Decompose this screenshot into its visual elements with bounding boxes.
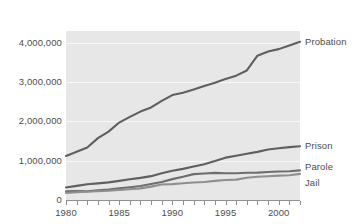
- series-line-probation: [66, 42, 300, 156]
- series-label-probation: Probation: [305, 36, 347, 47]
- y-tick-label-2000000: 2,000,000: [0, 115, 62, 126]
- x-tick-2002: [300, 201, 301, 205]
- x-tick-1989: [162, 201, 163, 205]
- x-tick-1988: [151, 201, 152, 205]
- x-tick-2000: [279, 201, 280, 205]
- x-tick-1984: [109, 201, 110, 205]
- x-tick-1999: [268, 201, 269, 205]
- x-tick-label-1995: 1995: [215, 207, 237, 218]
- series-line-parole: [66, 170, 300, 191]
- x-tick-label-1985: 1985: [108, 207, 130, 218]
- y-tick-label-3000000: 3,000,000: [0, 76, 62, 87]
- x-tick-1986: [130, 201, 131, 205]
- x-tick-2001: [289, 201, 290, 205]
- series-label-parole: Parole: [305, 161, 333, 172]
- x-tick-label-1980: 1980: [55, 207, 77, 218]
- x-tick-1997: [247, 201, 248, 205]
- x-tick-1991: [183, 201, 184, 205]
- x-tick-1995: [226, 201, 227, 205]
- x-tick-1998: [257, 201, 258, 205]
- x-tick-label-2000: 2000: [268, 207, 290, 218]
- x-tick-1981: [77, 201, 78, 205]
- x-tick-label-1990: 1990: [162, 207, 184, 218]
- x-tick-1994: [215, 201, 216, 205]
- y-tick-label-0: 0: [0, 194, 62, 205]
- series-label-prison: Prison: [305, 140, 333, 151]
- y-tick-label-4000000: 4,000,000: [0, 37, 62, 48]
- x-tick-1987: [140, 201, 141, 205]
- x-tick-1993: [204, 201, 205, 205]
- y-tick-label-1000000: 1,000,000: [0, 155, 62, 166]
- x-tick-1996: [236, 201, 237, 205]
- x-tick-1982: [87, 201, 88, 205]
- chart-figure: 4,000,000 3,000,000 2,000,000 1,000,000 …: [0, 0, 360, 224]
- x-tick-1990: [172, 201, 173, 205]
- series-label-jail: Jail: [305, 177, 320, 188]
- x-tick-1983: [98, 201, 99, 205]
- x-tick-1992: [194, 201, 195, 205]
- x-tick-1985: [119, 201, 120, 205]
- series-lines: [66, 31, 300, 200]
- x-tick-1980: [66, 201, 67, 205]
- series-line-prison: [66, 146, 300, 187]
